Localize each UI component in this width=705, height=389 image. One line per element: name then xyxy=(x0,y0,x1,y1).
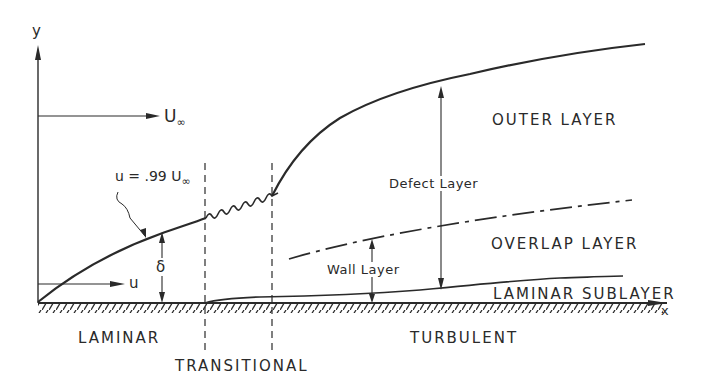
outer-layer-label: OUTER LAYER xyxy=(492,111,617,129)
velocity-label: u xyxy=(129,274,140,292)
boundary-layer-edge-transitional xyxy=(206,193,278,218)
boundary-layer-edge-laminar xyxy=(38,218,206,302)
defect-layer-label: Defect Layer xyxy=(389,176,478,191)
wall-layer-label: Wall Layer xyxy=(327,262,400,277)
y-axis-label: y xyxy=(32,22,42,40)
transitional-regime-label: TRANSITIONAL xyxy=(175,357,309,375)
laminar-sublayer-label: LAMINAR SUBLAYER xyxy=(493,285,676,303)
velocity-arrow-icon xyxy=(110,281,125,287)
laminar-regime-label: LAMINAR xyxy=(78,329,160,347)
freestream-label: U∞ xyxy=(164,106,186,126)
delta-symbol: δ xyxy=(156,258,166,276)
delta-arrow-down-icon xyxy=(159,292,165,303)
freestream-arrow-icon xyxy=(146,113,160,119)
overlap-layer-label: OVERLAP LAYER xyxy=(491,235,638,253)
wall-arrow-up-icon xyxy=(369,239,375,249)
x-axis-label: x xyxy=(661,303,670,318)
defect-arrow-up-icon xyxy=(438,86,444,98)
y-axis-arrow-icon xyxy=(35,45,41,60)
turbulent-regime-label: TURBULENT xyxy=(410,329,518,347)
edge-label-leader-arrow-icon xyxy=(140,228,146,238)
wall-arrow-down-icon xyxy=(369,294,375,303)
wall-hatching xyxy=(38,304,663,313)
edge-curve-label: u = .99 U∞ xyxy=(115,168,191,184)
edge-label-leader xyxy=(117,192,145,236)
